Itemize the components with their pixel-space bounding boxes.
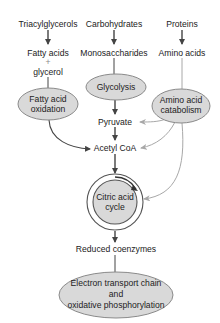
amino-acid-catabolism-label-1: Amino acid: [160, 95, 203, 105]
catabolism-diagram: Fatty acid oxidation Glycolysis Amino ac…: [0, 0, 220, 323]
arrow-fatty-acid-oxidation-to-acetyl-coa: [49, 120, 90, 149]
label-pyruvate: Pyruvate: [98, 117, 132, 127]
amino-acid-catabolism-label-2: catabolism: [160, 105, 201, 115]
label-plus: +: [45, 57, 50, 67]
etc-label-3: oxidative phosphorylation: [68, 300, 165, 310]
label-proteins: Proteins: [166, 19, 198, 29]
label-reduced-coenzymes: Reduced coenzymes: [76, 244, 156, 254]
node-glycolysis: Glycolysis: [86, 74, 146, 100]
node-amino-acid-catabolism: Amino acid catabolism: [152, 89, 210, 123]
glycolysis-label: Glycolysis: [97, 82, 136, 92]
label-amino-acids: Amino acids: [159, 48, 206, 58]
citric-acid-cycle-label-1: Citric acid: [96, 192, 134, 202]
label-triacylglycerols: Triacylglycerols: [19, 19, 78, 29]
node-citric-acid-cycle: Citric acid cycle: [87, 174, 143, 230]
node-electron-transport-chain: Electron transport chain and oxidative p…: [59, 272, 173, 318]
arrow-catabolism-to-acetyl-coa: [141, 122, 175, 148]
citric-acid-cycle-label-2: cycle: [105, 202, 125, 212]
label-glycerol: glycerol: [33, 67, 63, 77]
label-carbohydrates: Carbohydrates: [86, 19, 142, 29]
fatty-acid-oxidation-label-1: Fatty acid: [29, 94, 66, 104]
node-fatty-acid-oxidation: Fatty acid oxidation: [18, 88, 78, 120]
etc-label-2: and: [109, 289, 124, 299]
label-acetyl-coa: Acetyl CoA: [94, 143, 137, 153]
label-monosaccharides: Monosaccharides: [80, 48, 147, 58]
fatty-acid-oxidation-label-2: oxidation: [31, 104, 66, 114]
etc-label-1: Electron transport chain: [71, 278, 162, 288]
arrow-catabolism-to-citric-acid-cycle: [144, 123, 183, 199]
